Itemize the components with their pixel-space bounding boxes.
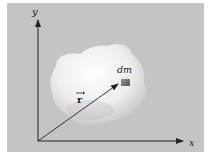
x-axis-label: x (189, 137, 195, 148)
y-axis-label: y (31, 6, 38, 17)
element-label: dm (117, 64, 132, 75)
body-shadow (66, 100, 114, 120)
mass-element-dm (121, 76, 130, 86)
mass-distribution-diagram: y x r dm (0, 0, 209, 159)
vector-label-text: r (77, 94, 83, 105)
